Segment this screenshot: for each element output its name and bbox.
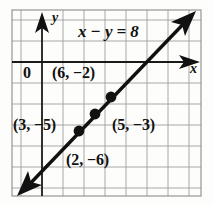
equation-annotation: x − y = 8	[78, 23, 139, 40]
y-axis-label: y	[52, 11, 58, 25]
graph-figure: x − y = 8 y x 0 (6, −2) (5, −3) (3, −5) …	[0, 0, 213, 205]
data-point-5-neg3	[90, 109, 101, 120]
point-label-2-neg6: (2, −6)	[66, 152, 109, 168]
point-label-5-neg3: (5, −3)	[112, 117, 155, 133]
data-point-6-neg2	[106, 92, 117, 103]
x-axis-label: x	[190, 62, 197, 76]
data-point-2-neg6	[74, 126, 85, 137]
point-label-3-neg5: (3, −5)	[13, 117, 56, 133]
point-label-6-neg2: (6, −2)	[52, 65, 95, 81]
origin-label: 0	[23, 65, 31, 81]
